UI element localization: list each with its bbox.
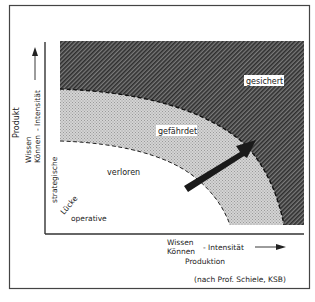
zone-label-secured: gesichert: [246, 77, 283, 86]
zone-label-lost: verloren: [107, 168, 140, 177]
source-citation: (nach Prof. Schiele, KSB): [194, 275, 286, 284]
y-axis-label-line2: Können: [33, 135, 42, 163]
y-axis-label-line1: Wissen: [24, 136, 33, 163]
label-strategic: strategische: [50, 156, 59, 203]
zone-label-endangered: gefährdet: [158, 127, 197, 136]
x-axis-label-suffix: - Intensität: [203, 243, 244, 252]
diagram-canvas: gesichert gefährdet verloren strategisch…: [0, 0, 315, 302]
x-axis-label-line1: Wissen: [167, 238, 194, 247]
x-axis-category: Produktion: [185, 257, 225, 266]
y-axis-label-suffix: - Intensität: [33, 90, 42, 131]
y-axis-category: Produkt: [12, 107, 21, 138]
x-axis-label-line2: Können: [167, 247, 195, 256]
label-operative: operative: [71, 214, 107, 223]
